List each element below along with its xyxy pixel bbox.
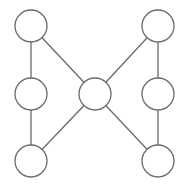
graph-diagram	[0, 0, 186, 186]
node-center	[79, 78, 111, 110]
node-bottom-left	[15, 145, 47, 177]
nodes-layer	[15, 10, 174, 177]
node-mid-left	[15, 78, 47, 110]
node-mid-right	[142, 78, 174, 110]
node-top-right	[142, 10, 174, 42]
node-top-left	[15, 10, 47, 42]
node-bottom-right	[142, 145, 174, 177]
